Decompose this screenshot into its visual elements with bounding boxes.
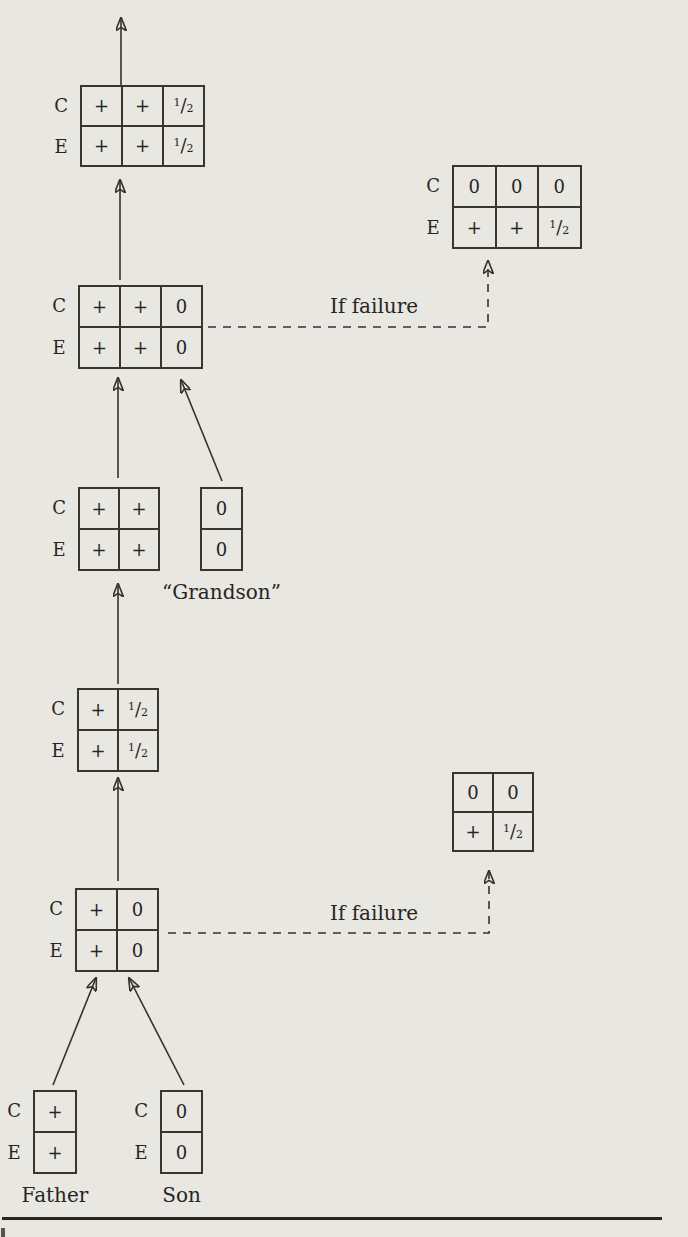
row-label-c: C [426,177,440,195]
row-label-c: C [7,1102,21,1120]
table-cell: 0 [161,1132,202,1173]
row-labels: C E [7,1090,21,1174]
table-cell: 0 [201,488,242,529]
arrow-father-to-withson [53,978,96,1085]
son-table: C E 00 Son [160,1090,203,1174]
table-cell: + [79,529,119,570]
row-label-c: C [51,700,65,718]
table-cell: 0 [117,930,158,971]
table-cell: 1/2 [493,812,533,851]
row-label-e: E [50,942,63,960]
dashed-arrow-if-failure-bottom [168,871,489,933]
row-labels: C E [52,285,66,369]
table-grid: +1/2+1/2 [77,688,159,772]
row-label-e: E [55,138,68,156]
row-label-c: C [49,900,63,918]
table-cell: + [122,126,163,166]
table-cell: + [120,327,161,368]
row-labels: C E [52,487,66,571]
table-cell: + [81,126,122,166]
row-labels: C E [426,165,440,249]
table-cell: 0 [493,773,533,812]
page-edge-artifact [1,1228,5,1237]
table-cell: + [34,1091,76,1132]
table-cell: + [78,689,118,730]
row-labels: C E [54,85,68,167]
table-cell: 1/2 [118,730,158,771]
grandson-caption: “Grandson” [162,582,281,602]
row-labels: C E [49,888,63,972]
table-cell: 0 [538,166,581,207]
table-cell: 1/2 [163,86,204,126]
row-labels: C E [134,1090,148,1174]
table-cell: 0 [453,773,493,812]
pedigree-table-son-grown: C E +1/2+1/2 [77,688,159,772]
table-cell: 0 [161,327,202,368]
pedigree-table-parents-pair: C E ++++ [78,487,160,571]
row-label-e: E [135,1144,148,1162]
table-grid: ++0++0 [78,285,203,369]
table-cell: + [120,286,161,327]
table-cell: + [79,488,119,529]
row-label-c: C [52,297,66,315]
table-cell: + [453,207,496,248]
row-label-e: E [52,742,65,760]
table-grid: ++++ [78,487,160,571]
arrow-grandson-to-withgrandson [181,380,222,481]
pedigree-table-final-failure: C E 000++1/2 [452,165,582,249]
row-label-e: E [53,339,66,357]
table-cell: 1/2 [163,126,204,166]
row-label-e: E [427,219,440,237]
table-cell: 1/2 [538,207,581,248]
row-label-e: E [53,541,66,559]
arrow-son-to-withson [129,978,184,1085]
table-cell: + [81,86,122,126]
if-failure-label-top: If failure [330,296,418,316]
book-figure-page: C E ++1/2++1/2 C E 000++1/2 C E ++0++0 C… [0,0,688,1237]
table-cell: 0 [161,1091,202,1132]
table-cell: 1/2 [118,689,158,730]
table-cell: + [119,529,159,570]
pedigree-table-son-failure: 00+1/2 [452,772,534,852]
father-caption: Father [22,1185,89,1205]
table-grid: ++1/2++1/2 [80,85,205,167]
pedigree-table-with-son: C E +0+0 [75,888,159,972]
table-grid: 000++1/2 [452,165,582,249]
row-label-c: C [54,97,68,115]
table-cell: + [78,730,118,771]
table-cell: + [453,812,493,851]
table-cell: 0 [161,286,202,327]
if-failure-label-bottom: If failure [330,903,418,923]
table-cell: 0 [201,529,242,570]
row-label-c: C [134,1102,148,1120]
table-grid: 00+1/2 [452,772,534,852]
row-labels: C E [51,688,65,772]
table-cell: + [79,327,120,368]
son-caption: Son [162,1185,201,1205]
table-grid: 00 [160,1090,203,1174]
table-cell: + [79,286,120,327]
table-cell: + [34,1132,76,1173]
table-cell: + [496,207,539,248]
father-table: C E ++ Father [33,1090,77,1174]
table-cell: + [76,930,117,971]
table-cell: 0 [496,166,539,207]
connector-overlay [0,0,688,1237]
table-cell: + [76,889,117,930]
page-bottom-rule [2,1217,662,1220]
pedigree-table-final: C E ++1/2++1/2 [80,85,205,167]
row-label-e: E [8,1144,21,1162]
table-grid: +0+0 [75,888,159,972]
table-grid: ++ [33,1090,77,1174]
pedigree-table-with-grandson: C E ++0++0 [78,285,203,369]
grandson-table: 00 “Grandson” [200,487,243,571]
table-cell: + [122,86,163,126]
table-cell: 0 [117,889,158,930]
table-cell: + [119,488,159,529]
table-grid: 00 [200,487,243,571]
row-label-c: C [52,499,66,517]
table-cell: 0 [453,166,496,207]
